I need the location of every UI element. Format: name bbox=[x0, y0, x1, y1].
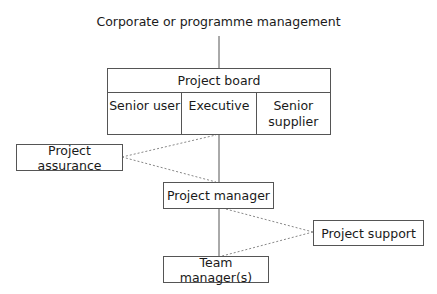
project-board: Project board Senior user Executive Seni… bbox=[107, 68, 331, 135]
project-support-box: Project support bbox=[313, 220, 424, 246]
project-board-title: Project board bbox=[108, 69, 330, 93]
dotted-assurance-to-manager bbox=[122, 157, 216, 182]
role-senior-user: Senior user bbox=[108, 93, 181, 134]
project-assurance-box: Project assurance bbox=[16, 144, 123, 171]
dotted-support-to-manager bbox=[222, 208, 313, 232]
team-manager-box: Team manager(s) bbox=[163, 256, 269, 283]
project-board-roles: Senior user Executive Senior supplier bbox=[108, 93, 330, 134]
dotted-assurance-to-board bbox=[122, 135, 216, 157]
role-executive: Executive bbox=[181, 93, 255, 134]
role-senior-supplier: Senior supplier bbox=[256, 93, 330, 134]
dotted-support-to-team bbox=[222, 232, 313, 256]
corporate-management-label: Corporate or programme management bbox=[0, 14, 437, 29]
project-manager-box: Project manager bbox=[163, 182, 274, 209]
